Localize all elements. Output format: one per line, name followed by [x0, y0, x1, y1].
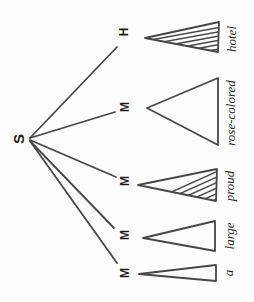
- hatching-hotel: [138, 26, 225, 68]
- tree-diagram-graphics: [0, 0, 254, 302]
- triangle-rose-colored: [147, 78, 218, 145]
- root-node-label: S: [10, 134, 27, 144]
- leaf-word-hotel: hotel: [224, 26, 240, 52]
- node-label-proud: M: [118, 176, 132, 186]
- leaf-word-a: a: [221, 270, 237, 277]
- leaf-word-proud: proud: [222, 171, 238, 202]
- triangle-a: [139, 265, 216, 281]
- triangle-large: [143, 221, 215, 251]
- node-label-large: M: [118, 230, 132, 240]
- node-label-hotel: H: [117, 28, 131, 37]
- tree-diagram: S H M M M M hotel rose-colored proud lar…: [0, 0, 254, 302]
- leaf-word-large: large: [222, 223, 238, 250]
- node-label-rose-colored: M: [118, 102, 132, 112]
- triangle-proud: [138, 169, 217, 201]
- triangle-hotel: [145, 22, 219, 52]
- leaf-word-rose-colored: rose-colored: [223, 80, 239, 145]
- node-label-a: M: [118, 268, 132, 278]
- hatching-proud: [128, 171, 218, 239]
- branch-line-large: [30, 141, 114, 228]
